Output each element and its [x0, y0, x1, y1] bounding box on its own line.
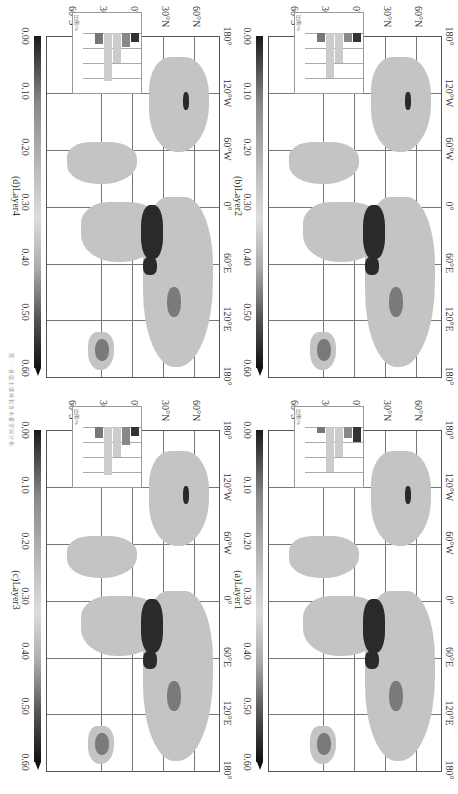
- histogram-bar: [317, 33, 325, 42]
- asia-mid: [389, 681, 403, 711]
- x-tick: 180°: [444, 27, 455, 46]
- x-tick: 120°W: [444, 79, 455, 107]
- north-america: [371, 57, 431, 152]
- y-tick: 60°N: [413, 6, 424, 27]
- histogram-inset: 比例/%: [294, 12, 364, 94]
- colorbar-extend-arrow: [35, 762, 41, 770]
- na-west-high: [183, 486, 189, 504]
- histogram-inset: 比例/%: [294, 406, 364, 488]
- histogram-bar: [317, 427, 325, 433]
- x-tick: 180°: [222, 27, 233, 46]
- colorbar: [34, 36, 41, 368]
- na-west-high: [405, 92, 411, 110]
- x-tick: 60°E: [444, 253, 455, 273]
- histogram-bar: [326, 33, 334, 78]
- arabia-high: [143, 257, 157, 275]
- sahara-high: [363, 599, 385, 653]
- histogram-bar: [353, 427, 361, 442]
- south-america: [289, 536, 359, 578]
- arabia-high: [365, 651, 379, 669]
- histogram-inset: 比例/%: [72, 12, 142, 94]
- colorbar: [256, 36, 263, 368]
- histogram-inset: 比例/%: [72, 406, 142, 488]
- map-panel-d: 180° 120°W 60°W 0° 60°E 120°E 180° 60°N …: [19, 6, 234, 386]
- australia-mid: [95, 733, 109, 755]
- histogram-bar: [122, 427, 130, 445]
- colorbar-extend-arrow: [35, 368, 41, 376]
- colorbar: [256, 430, 263, 762]
- x-tick: 0°: [444, 202, 455, 211]
- x-tick: 180°: [444, 421, 455, 440]
- y-tick: 30°N: [160, 400, 171, 421]
- y-tick: 60°N: [413, 400, 424, 421]
- x-tick: 180°: [222, 367, 233, 386]
- histogram-bar: [131, 33, 139, 42]
- histogram-bar: [326, 427, 334, 472]
- histogram-bar: [95, 427, 103, 438]
- x-tick: 60°W: [222, 137, 233, 160]
- sahara-high: [141, 599, 163, 653]
- north-america: [371, 451, 431, 546]
- colorbar: [34, 430, 41, 762]
- y-tick: 60°N: [191, 6, 202, 27]
- australia-mid: [317, 733, 331, 755]
- x-tick: 120°E: [444, 306, 455, 331]
- x-tick: 120°W: [444, 473, 455, 501]
- histogram-bar: [344, 33, 352, 42]
- arabia-high: [143, 651, 157, 669]
- colorbar-extend-arrow: [257, 762, 263, 770]
- figure: 180° 120°W 60°W 0° 60°E 120°E 180° 60°N …: [0, 0, 458, 794]
- asia-mid: [167, 287, 181, 317]
- y-tick: 30°N: [382, 400, 393, 421]
- south-america: [67, 142, 137, 184]
- histogram-bar: [131, 427, 139, 436]
- y-tick: 30°N: [160, 6, 171, 27]
- x-tick: 60°E: [444, 647, 455, 667]
- asia-mid: [389, 287, 403, 317]
- histogram-bar: [335, 33, 343, 63]
- asia-mid: [167, 681, 181, 711]
- histogram-bar: [95, 33, 103, 44]
- histogram-bar: [104, 427, 112, 475]
- sahara-high: [363, 205, 385, 259]
- na-west-high: [405, 486, 411, 504]
- histogram-bar: [122, 33, 130, 47]
- panel-label: (b)Layer2: [233, 6, 244, 386]
- australia-mid: [95, 339, 109, 361]
- x-tick: 120°E: [444, 700, 455, 725]
- x-tick: 0°: [222, 202, 233, 211]
- arabia-high: [365, 257, 379, 275]
- y-tick: 60°N: [191, 400, 202, 421]
- x-tick: 0°: [222, 596, 233, 605]
- x-tick: 60°E: [222, 647, 233, 667]
- histogram-bar: [113, 427, 121, 457]
- histogram-bar: [104, 33, 112, 81]
- map-panel-c: 180° 120°W 60°W 0° 60°E 120°E 180° 60°N …: [19, 400, 234, 780]
- histogram-bar: [113, 33, 121, 63]
- north-america: [149, 451, 209, 546]
- x-tick: 60°W: [444, 137, 455, 160]
- x-tick: 180°: [444, 761, 455, 780]
- x-tick: 120°W: [222, 79, 233, 107]
- x-tick: 180°: [222, 421, 233, 440]
- x-tick: 120°W: [222, 473, 233, 501]
- map-panel-b: 180° 120°W 60°W 0° 60°E 120°E 180° 60°N …: [241, 6, 456, 386]
- histogram-bar: [353, 33, 361, 42]
- sahara-high: [141, 205, 163, 259]
- x-tick: 180°: [222, 761, 233, 780]
- x-tick: 60°W: [222, 531, 233, 554]
- x-tick: 120°E: [222, 700, 233, 725]
- map-panel-a: 180° 120°W 60°W 0° 60°E 120°E 180° 60°N …: [241, 400, 456, 780]
- south-america: [67, 536, 137, 578]
- histogram-bar: [335, 427, 343, 457]
- x-tick: 60°E: [222, 253, 233, 273]
- north-america: [149, 57, 209, 152]
- x-tick: 120°E: [222, 306, 233, 331]
- histogram-bar: [344, 427, 352, 438]
- south-america: [289, 142, 359, 184]
- x-tick: 60°W: [444, 531, 455, 554]
- figure-caption: 图 ·· 各层土壤体积含水量空间分布: [9, 200, 16, 600]
- panel-label: (a)Layer1: [233, 400, 244, 780]
- na-west-high: [183, 92, 189, 110]
- australia-mid: [317, 339, 331, 361]
